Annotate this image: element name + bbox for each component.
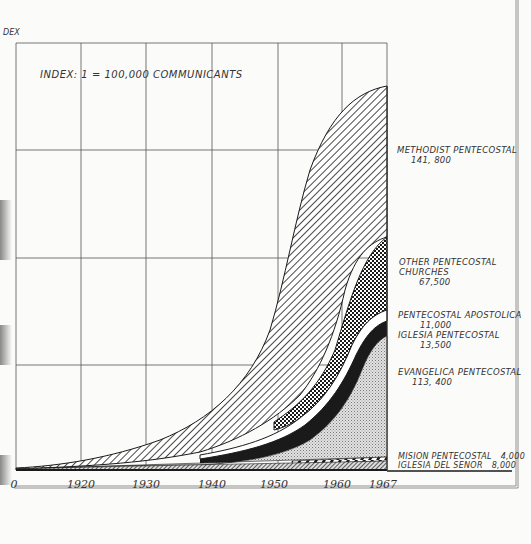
- series-name: METHODIST PENTECOSTAL: [397, 145, 517, 155]
- series-value: 4,000: [495, 452, 525, 461]
- series-name: IGLESIA PENTECOSTAL: [398, 330, 500, 340]
- label-iglesia-del-senor: IGLESIA DEL SENOR 8,000: [398, 461, 516, 471]
- x-tick-1920: 1920: [67, 478, 95, 491]
- chart-page: DEX INDEX: 1 = 100,000 COMMUNICANTS METH…: [0, 0, 531, 544]
- series-name-cont: CHURCHES: [399, 267, 497, 277]
- series-value: 141, 800: [397, 155, 517, 165]
- series-value: 67,500: [399, 277, 497, 287]
- x-tick-1950: 1950: [260, 478, 288, 491]
- series-name: EVANGELICA PENTECOSTAL: [398, 367, 521, 377]
- index-note: INDEX: 1 = 100,000 COMMUNICANTS: [40, 69, 243, 80]
- series-value: 11,000: [398, 320, 522, 330]
- series-value: 113, 400: [398, 377, 521, 387]
- y-axis-label: DEX: [3, 28, 20, 37]
- series-name: OTHER PENTECOSTAL: [399, 257, 497, 267]
- label-methodist-pentecostal: METHODIST PENTECOSTAL 141, 800: [397, 145, 517, 165]
- series-value: 8,000: [486, 461, 516, 470]
- x-tick-1960: 1960: [323, 478, 351, 491]
- label-pentecostal-apostolica: PENTECOSTAL APOSTOLICA 11,000: [398, 310, 522, 330]
- series-value: 13,500: [398, 340, 500, 350]
- x-tick-1967: 1967: [369, 478, 397, 491]
- label-evangelica-pentecostal: EVANGELICA PENTECOSTAL 113, 400: [398, 367, 521, 387]
- x-tick-1930: 1930: [132, 478, 160, 491]
- series-name: MISION PENTECOSTAL: [398, 452, 492, 461]
- x-tick-1940: 1940: [198, 478, 226, 491]
- x-tick-1910: 0: [11, 478, 18, 491]
- series-name: IGLESIA DEL SENOR: [398, 461, 483, 470]
- series-name: PENTECOSTAL APOSTOLICA: [398, 310, 522, 320]
- label-iglesia-pentecostal: IGLESIA PENTECOSTAL 13,500: [398, 330, 500, 350]
- label-other-pentecostal: OTHER PENTECOSTAL CHURCHES 67,500: [399, 257, 497, 287]
